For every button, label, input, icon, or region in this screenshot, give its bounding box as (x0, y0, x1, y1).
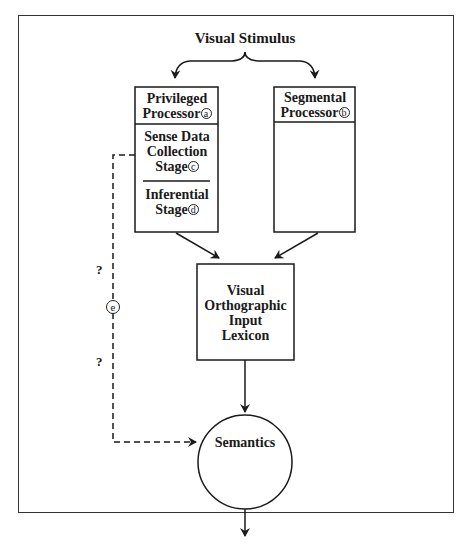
arrow-segmental-to-lexicon (275, 233, 318, 258)
dashed-route-upper (113, 155, 135, 300)
marker-c: c (188, 161, 199, 172)
segmental-processor-label: Segmental Processorb (275, 90, 355, 120)
visual-stimulus-label: Visual Stimulus (165, 31, 325, 46)
diagram-connectors (0, 0, 472, 544)
inferential-stage-label: Inferential Staged (136, 187, 218, 217)
marker-d: d (188, 204, 199, 215)
privileged-processor-label: Privileged Processora (136, 91, 218, 121)
question-mark-bottom: ? (96, 354, 103, 370)
marker-a: a (201, 108, 212, 119)
lexicon-label: Visual Orthographic Input Lexicon (197, 283, 294, 343)
semantics-circle (198, 415, 292, 509)
dashed-route-lower (113, 313, 196, 442)
sense-data-stage-label: Sense Data Collection Stagec (136, 129, 218, 174)
stimulus-brace (175, 52, 315, 78)
arrow-privileged-to-lexicon (176, 233, 219, 258)
marker-b: b (339, 107, 350, 118)
question-mark-top: ? (96, 262, 103, 278)
semantics-label: Semantics (198, 435, 292, 450)
marker-e: e (106, 300, 120, 314)
